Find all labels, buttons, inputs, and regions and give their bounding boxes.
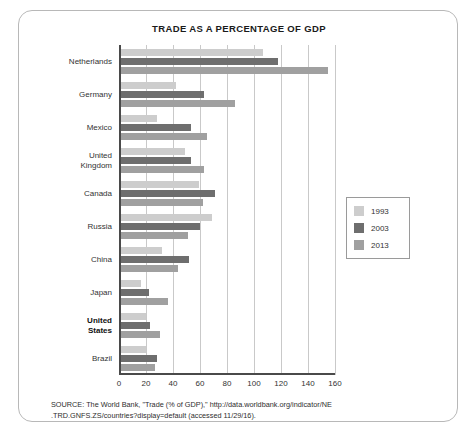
legend-label: 2013 (371, 241, 389, 250)
bar (119, 199, 203, 206)
source-note-line-1: SOURCE: The World Bank, "Trade (% of GDP… (51, 399, 433, 410)
category-label-line: Brazil (19, 354, 112, 364)
bar (119, 322, 150, 329)
bar-group (119, 280, 335, 305)
x-tick-label-80: 80 (223, 379, 232, 388)
category-label-line: Japan (19, 288, 112, 298)
category-axis-labels: NetherlandsGermanyMexicoUnitedKingdomCan… (19, 45, 116, 375)
chart-legend: 199320032013 (346, 197, 410, 259)
legend-item-2013[interactable]: 2013 (354, 240, 389, 250)
x-tick-label-120: 120 (274, 379, 287, 388)
category-label: UnitedKingdom (19, 151, 112, 170)
legend-swatch-2013 (354, 240, 364, 250)
category-label-line: States (19, 326, 112, 336)
category-label: Brazil (19, 354, 112, 364)
bar-group (119, 313, 335, 338)
bar-group (119, 115, 335, 140)
x-tick-label-60: 60 (196, 379, 205, 388)
legend-label: 1993 (371, 207, 389, 216)
figure-card: TRADE AS A PERCENTAGE OF GDP Netherlands… (18, 10, 458, 422)
x-axis-line (119, 373, 335, 375)
x-tick-label-160: 160 (328, 379, 341, 388)
bar (119, 280, 141, 287)
bar (119, 82, 176, 89)
bar (119, 124, 191, 131)
bar (119, 91, 204, 98)
category-label-line: Mexico (19, 123, 112, 133)
bar (119, 166, 204, 173)
legend-swatch-1993 (354, 206, 364, 216)
legend-swatch-2003 (354, 223, 364, 233)
bar (119, 49, 263, 56)
bar (119, 247, 162, 254)
bar (119, 232, 188, 239)
gridline-160 (335, 45, 336, 375)
bar (119, 355, 157, 362)
bar (119, 190, 215, 197)
bar (119, 265, 178, 272)
category-label-line: China (19, 255, 112, 265)
bar-group (119, 82, 335, 107)
legend-item-2003[interactable]: 2003 (354, 223, 389, 233)
category-label: China (19, 255, 112, 265)
bar-group (119, 214, 335, 239)
bar (119, 298, 168, 305)
bar-groups (119, 45, 335, 375)
category-label-line: Netherlands (19, 57, 112, 67)
bar-group (119, 346, 335, 371)
legend-label: 2003 (371, 224, 389, 233)
category-label-line: Germany (19, 90, 112, 100)
bar (119, 256, 189, 263)
bar-group (119, 148, 335, 173)
bar (119, 364, 155, 371)
category-label-line: United (19, 151, 112, 161)
bar (119, 313, 146, 320)
x-tick-label-20: 20 (142, 379, 151, 388)
source-note-line-2: .TRD.GNFS.ZS/countries?display=default (… (51, 410, 433, 421)
bar (119, 331, 160, 338)
bar (119, 223, 200, 230)
category-label-line: Canada (19, 189, 112, 199)
chart-title: TRADE AS A PERCENTAGE OF GDP (19, 23, 459, 34)
category-label: Canada (19, 189, 112, 199)
plot-area (119, 45, 335, 375)
category-label-line: United (19, 316, 112, 326)
x-axis-tick-labels: 020406080100120140160 (119, 379, 335, 393)
bar-group (119, 49, 335, 74)
category-label: Mexico (19, 123, 112, 133)
category-label: Japan (19, 288, 112, 298)
category-label-line: Kingdom (19, 161, 112, 171)
x-tick-label-100: 100 (247, 379, 260, 388)
y-axis-line (119, 45, 121, 375)
x-tick-label-0: 0 (117, 379, 121, 388)
bar (119, 214, 212, 221)
bar-group (119, 181, 335, 206)
bar (119, 181, 199, 188)
bar (119, 157, 191, 164)
category-label-line: Russia (19, 222, 112, 232)
source-note: SOURCE: The World Bank, "Trade (% of GDP… (51, 399, 433, 421)
category-label: Germany (19, 90, 112, 100)
bar (119, 289, 149, 296)
category-label: Russia (19, 222, 112, 232)
category-label: Netherlands (19, 57, 112, 67)
category-label: UnitedStates (19, 316, 112, 335)
legend-item-1993[interactable]: 1993 (354, 206, 389, 216)
bar (119, 133, 207, 140)
bar (119, 100, 235, 107)
bar-group (119, 247, 335, 272)
bar (119, 346, 146, 353)
bar (119, 148, 185, 155)
bar (119, 115, 157, 122)
bar (119, 67, 328, 74)
x-tick-label-140: 140 (301, 379, 314, 388)
bar (119, 58, 278, 65)
x-tick-label-40: 40 (169, 379, 178, 388)
